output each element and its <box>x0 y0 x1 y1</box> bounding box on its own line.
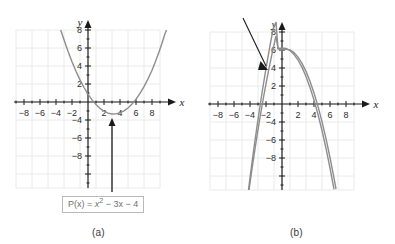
caption-a: (a) <box>0 227 197 238</box>
x-axis-label-a: x <box>179 96 185 108</box>
svg-text:−6: −6 <box>72 133 82 143</box>
figure-container: −8 −6 −4 −2 2 4 6 8 8 6 4 2 −4 −6 −8 x y <box>0 0 395 244</box>
svg-text:2: 2 <box>77 79 82 89</box>
pointer-arrow-b <box>243 18 268 70</box>
y-axis-label-a: y <box>77 16 83 28</box>
svg-text:8: 8 <box>343 110 348 120</box>
equation-rest-a: − 3x − 4 <box>106 199 139 209</box>
x-tick-labels-b: −8 −6 −4 −2 2 4 6 8 <box>213 110 349 120</box>
svg-text:6: 6 <box>77 43 82 53</box>
svg-text:6: 6 <box>133 108 138 118</box>
equation-exp-a: 2 <box>99 197 103 204</box>
svg-text:4: 4 <box>77 61 82 71</box>
y-axis-arrow-b <box>279 22 286 30</box>
x-tick-labels-a: −8 −6 −4 −2 2 4 6 8 <box>19 108 155 118</box>
svg-text:−4: −4 <box>51 108 61 118</box>
x-axis-label-b: x <box>373 98 379 110</box>
svg-text:−8: −8 <box>19 108 29 118</box>
svg-text:−6: −6 <box>229 110 239 120</box>
svg-text:4: 4 <box>311 110 316 120</box>
svg-text:4: 4 <box>271 63 276 73</box>
svg-text:2: 2 <box>295 110 300 120</box>
x-axis-arrow-a <box>168 99 176 106</box>
plot-b: −8 −6 −4 −2 2 4 6 8 8 6 4 2 −4 −6 −8 x y <box>198 0 395 244</box>
svg-text:6: 6 <box>327 110 332 120</box>
y-axis-arrow-a <box>85 20 92 28</box>
caption-b: (b) <box>198 227 395 238</box>
svg-text:−8: −8 <box>266 153 276 163</box>
svg-text:−6: −6 <box>266 135 276 145</box>
svg-text:−6: −6 <box>35 108 45 118</box>
svg-text:−4: −4 <box>266 117 276 127</box>
x-axis-arrow-b <box>362 101 370 108</box>
panel-b: −8 −6 −4 −2 2 4 6 8 8 6 4 2 −4 −6 −8 x y <box>198 0 395 244</box>
svg-text:−4: −4 <box>245 110 255 120</box>
svg-text:−4: −4 <box>72 115 82 125</box>
svg-text:2: 2 <box>271 81 276 91</box>
pointer-arrow-a <box>109 118 116 192</box>
panel-a: −8 −6 −4 −2 2 4 6 8 8 6 4 2 −4 −6 −8 x y <box>0 0 197 244</box>
svg-text:−8: −8 <box>72 151 82 161</box>
equation-eq-a: = <box>87 199 92 209</box>
equation-label-a: P(x) = x2 − 3x − 4 <box>62 196 144 213</box>
svg-text:−8: −8 <box>213 110 223 120</box>
equation-fn-a: P(x) <box>68 199 85 209</box>
svg-text:8: 8 <box>149 108 154 118</box>
